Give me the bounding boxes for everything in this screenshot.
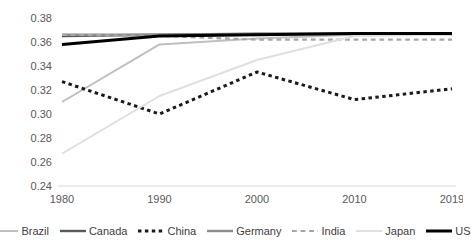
legend-swatch-japan-icon [356, 226, 382, 236]
legend-label: Brazil [21, 225, 49, 237]
legend-label: Germany [236, 225, 281, 237]
x-axis-tick-label: 1990 [147, 193, 171, 205]
y-axis-tick-label: 0.38 [31, 12, 52, 24]
x-axis-tick-label: 2010 [342, 193, 366, 205]
legend-swatch-canada-icon [60, 226, 86, 236]
legend-item-canada[interactable]: Canada [60, 225, 128, 237]
y-axis-tick-label: 0.30 [31, 108, 52, 120]
legend-label: India [321, 225, 345, 237]
legend-swatch-india-icon [292, 226, 318, 236]
legend-item-us[interactable]: US [426, 225, 470, 237]
legend-swatch-china-icon [138, 226, 164, 236]
legend-label: US [455, 225, 470, 237]
y-axis-tick-label: 0.34 [31, 60, 52, 72]
legend-label: Canada [89, 225, 128, 237]
series-line-brazil [62, 35, 452, 102]
legend-swatch-germany-icon [207, 226, 233, 236]
plot-area: 0.240.260.280.300.320.340.360.38 1980199… [0, 0, 463, 215]
y-axis-tick-label: 0.36 [31, 36, 52, 48]
chart-svg: 0.240.260.280.300.320.340.360.38 1980199… [0, 0, 463, 215]
legend-item-china[interactable]: China [138, 225, 196, 237]
y-axis-tick-label: 0.26 [31, 156, 52, 168]
y-axis-tick-labels: 0.240.260.280.300.320.340.360.38 [31, 12, 52, 192]
legend-item-germany[interactable]: Germany [207, 225, 281, 237]
x-axis-tick-label: 1980 [50, 193, 74, 205]
legend-swatch-us-icon [426, 226, 452, 236]
legend-swatch-brazil-icon [0, 226, 18, 236]
y-axis-tick-label: 0.32 [31, 84, 52, 96]
y-axis-tick-label: 0.28 [31, 132, 52, 144]
y-axis-tick-label: 0.24 [31, 180, 52, 192]
series-line-china [62, 72, 452, 114]
legend-label: Japan [385, 225, 415, 237]
legend-item-japan[interactable]: Japan [356, 225, 415, 237]
legend-item-india[interactable]: India [292, 225, 345, 237]
legend-label: China [167, 225, 196, 237]
series-lines [62, 34, 452, 154]
x-axis-tick-labels: 19801990200020102019 [50, 193, 463, 205]
legend-item-brazil[interactable]: Brazil [0, 225, 49, 237]
series-line-japan [62, 35, 452, 154]
chart-legend: BrazilCanadaChinaGermanyIndiaJapanUS [0, 215, 463, 247]
x-axis-tick-label: 2019 [440, 193, 463, 205]
x-axis-tick-label: 2000 [245, 193, 269, 205]
